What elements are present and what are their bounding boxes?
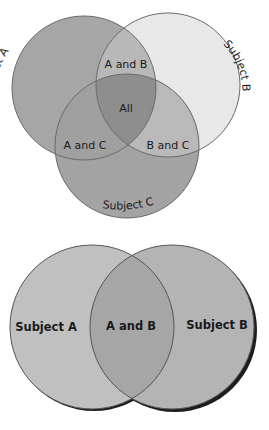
label-a-and-b-2: A and B	[106, 319, 156, 333]
venn-two-set: Subject A A and B Subject B	[10, 245, 257, 412]
label-all: All	[119, 102, 133, 115]
label-subject-a: Subject A	[0, 45, 12, 102]
label-subject-b-2: Subject B	[186, 318, 248, 332]
label-a-and-c: A and C	[64, 139, 107, 152]
label-a-and-b: A and B	[105, 58, 148, 71]
venn-three-set: Subject A Subject B Subject C A and B Al…	[0, 13, 252, 218]
label-b-and-c: B and C	[147, 139, 190, 152]
venn-diagrams: Subject A Subject B Subject C A and B Al…	[0, 0, 269, 430]
label-subject-a-2: Subject A	[15, 320, 77, 334]
